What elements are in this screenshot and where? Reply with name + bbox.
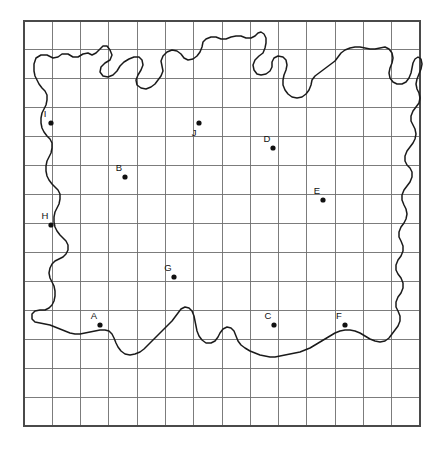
point-dot-d[interactable] [270,145,275,150]
grid-lines [24,21,420,426]
survey-point-g[interactable]: G [164,262,176,280]
point-label-b: B [116,162,122,173]
point-dot-e[interactable] [320,197,325,202]
point-label-c: C [265,310,272,321]
point-dot-j[interactable] [196,120,201,125]
point-dot-b[interactable] [122,174,127,179]
point-label-g: G [164,262,171,273]
survey-point-b[interactable]: B [116,162,128,180]
point-label-d: D [264,133,271,144]
survey-point-d[interactable]: D [264,133,276,151]
point-label-e: E [314,185,320,196]
point-label-j: J [192,127,197,138]
survey-point-h[interactable]: H [42,210,54,228]
survey-point-a[interactable]: A [91,310,103,328]
point-dot-i[interactable] [48,120,53,125]
point-dot-h[interactable] [48,222,53,227]
survey-points: ABCDEFGHIJ [42,108,348,328]
point-label-i: I [44,108,47,119]
survey-point-c[interactable]: C [265,310,277,328]
survey-point-j[interactable]: J [192,120,202,138]
point-dot-c[interactable] [271,322,276,327]
survey-point-e[interactable]: E [314,185,326,203]
point-label-f: F [336,310,342,321]
point-label-h: H [42,210,49,221]
survey-point-f[interactable]: F [336,310,348,328]
point-dot-g[interactable] [171,274,176,279]
map-figure: ABCDEFGHIJ [0,0,444,454]
point-label-a: A [91,310,98,321]
point-dot-a[interactable] [97,322,102,327]
point-dot-f[interactable] [342,322,347,327]
grid-map-svg: ABCDEFGHIJ [0,0,444,454]
